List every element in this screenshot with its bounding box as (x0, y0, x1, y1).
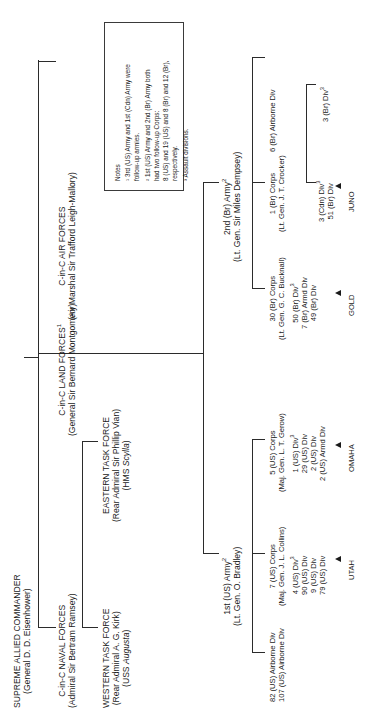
corps-5-us-divisions: 1 (US) Div3 29 (US) Div 2 (US) Div 2 (US… (292, 426, 328, 481)
task-force-western-holder: (Rear Admiral A. G. Kirk) (111, 611, 121, 705)
command-naval-holder: (Admiral Sir Bertram Ramsey) (67, 593, 77, 708)
line-2br-trunk (252, 57, 253, 288)
corps-1-br-divisions: 3 (Cdn) Div3 51 (Br) Div (318, 181, 336, 222)
army-1st-us-title: 1st (US) Army (222, 561, 232, 614)
supreme-title: SUPREME ALLIED COMMANDER (12, 574, 22, 708)
corps-7-us-divisions: 4 (US) Div3 90 (US) Div 9 (US) Div 79 (U… (292, 556, 328, 595)
notes-box: Notes ¹ 3rd (US) Army and 1st (Cdn) Army… (104, 22, 184, 191)
corps-7-us-title: 7 (US) Corps (268, 544, 277, 588)
command-land-title: C-in-C LAND FORCES (57, 327, 67, 415)
line-supreme-stub (24, 357, 39, 358)
corps-5-us-holder: (Maj. Gen. L. T. Gerow) (277, 413, 286, 492)
beach-arrow-omaha (335, 442, 341, 448)
line-taskforce-eastern (82, 441, 98, 442)
command-air-title: C-in-C AIR FORCES (57, 206, 67, 285)
division-3-br: 3 (Br) Div3 (322, 87, 331, 122)
command-land-note: 1 (56, 324, 62, 327)
line-1us-corps5 (252, 439, 265, 440)
task-force-eastern[interactable]: EASTERN TASK FORCE (Rear Admiral Sir Phi… (101, 409, 131, 522)
corps-5-us-title: 5 (US) Corps (268, 430, 277, 474)
task-force-eastern-flagship: (HMS Scylla) (121, 440, 131, 490)
corps-7-us[interactable]: 7 (US) Corps (Maj. Gen. J. L. Collins) (269, 527, 287, 606)
line-1us-airborne (252, 652, 265, 653)
beach-arrow-utah (335, 556, 341, 562)
line-1brcorps-trunk (306, 84, 307, 182)
line-1us-stem (252, 553, 265, 554)
army-2nd-br-note: 2 (221, 179, 227, 182)
line-armies-trunk (203, 182, 204, 554)
line-2br-corps30 (252, 288, 265, 289)
corps-30-br[interactable]: 30 (Br) Corps (Lt. Gen. G. C. Bucknall) (269, 257, 287, 340)
line-1brcorps-sub (306, 84, 316, 85)
army-2nd-br-holder: (Lt. Gen. Sir Miles Dempsey) (232, 152, 242, 262)
corps-30-br-title: 30 (Br) Corps (268, 276, 277, 322)
army-2nd-br-title: 2nd (Br) Army (222, 182, 232, 235)
corps-30-br-holder: (Lt. Gen. G. C. Bucknall) (277, 257, 286, 340)
beach-label-omaha: OMAHA (348, 444, 357, 472)
notes-line-7: ³ Assault divisions. (182, 128, 190, 181)
line-army-1us (203, 553, 219, 554)
notes-line-3: ² 1st (US) Army and 2nd (Br) Army both (144, 69, 152, 181)
line-2br-stem (252, 182, 265, 183)
command-naval-title: C-in-C NAVAL FORCES (57, 605, 67, 697)
army-2nd-br[interactable]: 2nd (Br) Army2 (Lt. Gen. Sir Miles Demps… (222, 152, 242, 262)
line-branch-air (38, 61, 56, 62)
command-air[interactable]: C-in-C AIR FORCES (Air Marshal Sir Traff… (57, 172, 77, 320)
notes-line-2: follow-up armies. (133, 133, 141, 181)
corps-1-br[interactable]: 1 (Br) Corps (Lt. Gen. J. T. Crocker) (269, 155, 287, 232)
corps-30-br-divisions: 50 (Br) Div3 7 (Br) Armd Div 49 (Br) Div (292, 277, 319, 329)
corps-1-br-holder: (Lt. Gen. J. T. Crocker) (277, 155, 286, 232)
airborne-107-us: 107 (US) Airborne Div (278, 628, 287, 702)
task-force-eastern-holder: (Rear Admiral Sir Phillip Vian) (111, 409, 121, 522)
command-air-holder: (Air Marshal Sir Trafford Leigh-Mallory) (67, 172, 77, 320)
beach-label-gold: GOLD (348, 294, 357, 316)
line-army-2br (203, 182, 219, 183)
corps-1-br-title: 1 (Br) Corps (268, 173, 277, 214)
army-1st-us-note: 2 (221, 558, 227, 561)
notes-line-6: respectively. (171, 146, 179, 181)
task-force-western[interactable]: WESTERN TASK FORCE (Rear Admiral A. G. K… (101, 609, 131, 708)
army-1st-us[interactable]: 1st (US) Army2 (Lt. Gen. O. Bradley) (222, 547, 242, 626)
line-1us-trunk (252, 439, 253, 652)
corps-5-us[interactable]: 5 (US) Corps (Maj. Gen. L. T. Gerow) (269, 413, 287, 492)
supreme-holder: (General D. D. Eisenhower) (22, 588, 32, 694)
task-force-western-title: WESTERN TASK FORCE (101, 609, 111, 708)
line-trunk-main (38, 60, 39, 628)
line-2br-airborne (252, 57, 265, 58)
line-branch-naval (38, 627, 56, 628)
command-land-holder: (General Sir Bernard Montgomery) (67, 304, 77, 436)
beach-arrow-gold (335, 290, 341, 296)
army-1st-us-holder: (Lt. Gen. O. Bradley) (232, 547, 242, 626)
task-force-western-flagship: (USS Augusta) (121, 630, 131, 687)
supreme-allied-commander: SUPREME ALLIED COMMANDER (General D. D. … (12, 574, 32, 708)
corps-7-us-holder: (Maj. Gen. J. L. Collins) (277, 527, 286, 606)
notes-heading: Notes (114, 164, 122, 181)
command-naval[interactable]: C-in-C NAVAL FORCES (Admiral Sir Bertram… (57, 593, 77, 708)
notes-line-4: had two follow-up Corps: (153, 111, 161, 181)
beach-arrow-juno (335, 183, 341, 189)
beach-label-juno: JUNO (348, 191, 357, 212)
notes-line-1: ¹ 3rd (US) Army and 1st (Cdn) Army were (124, 64, 132, 181)
line-taskforce-trunk (82, 441, 83, 627)
airborne-6-br: 6 (Br) Airborne Div (269, 90, 278, 152)
beach-label-utah: UTAH (348, 560, 357, 580)
line-taskforce-western (82, 627, 98, 628)
task-force-eastern-title: EASTERN TASK FORCE (101, 417, 111, 514)
command-land[interactable]: C-in-C LAND FORCES1 (General Sir Bernard… (57, 304, 77, 436)
notes-line-5: 8 (US) and 19 (US) and 8 (Br) and 12 (Br… (162, 61, 170, 181)
